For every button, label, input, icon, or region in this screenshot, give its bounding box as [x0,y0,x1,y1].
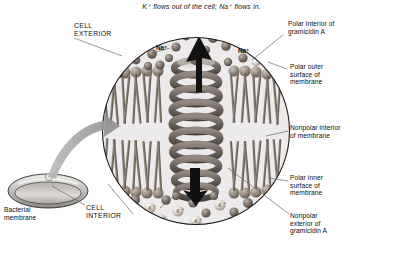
label-cell-interior: CELL INTERIOR [86,204,121,220]
svg-text:+: + [182,207,184,211]
label-bacterial-membrane: Bacterial membrane [4,206,36,221]
svg-text:+: + [200,217,202,221]
label-polar-inner-surface: Polar inner surface of membrane [290,174,323,197]
label-sodium-right: Na⁺ [238,47,249,55]
svg-text:+: + [224,201,226,205]
svg-text:+: + [154,204,156,208]
svg-text:K: K [164,31,168,36]
label-nonpolar-exterior-gramicidin: Nonpolar exterior of gramicidin A [290,212,327,235]
bacterium-illustration [8,173,88,208]
label-nonpolar-interior: Nonpolar interior of membrane [290,124,340,139]
label-cell-exterior: CELL EXTERIOR [74,22,112,38]
label-polar-interior-gramicidin: Polar interior of gramicidin A [288,20,334,35]
label-sodium-left: Na⁺ [156,44,167,52]
figure-canvas: K⁺ flows out of the cell; Na⁺ flows in. [0,0,403,254]
svg-text:+: + [170,30,172,34]
label-polar-outer-surface: Polar outer surface of membrane [290,63,323,86]
svg-text:+: + [164,215,166,219]
diagram-illustration: K+ K+ K+ K+ K+ K+ K+ [0,0,403,254]
